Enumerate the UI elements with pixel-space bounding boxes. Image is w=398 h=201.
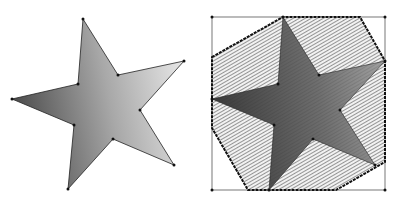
vertex-dot: [277, 83, 280, 86]
vertex-dot: [117, 74, 120, 77]
vertex-dot: [211, 98, 214, 101]
vertex-dot: [183, 60, 186, 63]
left-star-polygon: [12, 19, 184, 189]
vertex-dot: [312, 138, 315, 141]
diagram-canvas: [0, 0, 398, 201]
vertex-dot: [77, 83, 80, 86]
vertex-dot: [173, 164, 176, 167]
vertex-dot: [273, 124, 276, 127]
vertex-dot: [318, 74, 321, 77]
vertex-dot: [211, 189, 214, 192]
vertex-dot: [211, 16, 214, 19]
vertex-dot: [339, 109, 342, 112]
vertex-dot: [384, 189, 387, 192]
vertex-dot: [112, 138, 115, 141]
vertex-dot: [384, 16, 387, 19]
vertex-dot: [11, 98, 14, 101]
vertex-dot: [268, 189, 271, 192]
right-hull-figure: [211, 16, 387, 192]
vertex-dot: [73, 124, 76, 127]
vertex-dot: [139, 109, 142, 112]
vertex-dot: [282, 16, 285, 19]
vertex-dot: [82, 18, 85, 21]
vertex-dot: [67, 188, 70, 191]
vertex-dot: [374, 164, 377, 167]
left-star-figure: [11, 18, 186, 191]
vertex-dot: [384, 60, 387, 63]
